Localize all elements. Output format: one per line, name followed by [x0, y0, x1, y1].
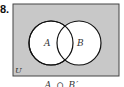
universe-label: U	[15, 66, 22, 75]
set-b-label: B	[76, 38, 84, 48]
caption: A ∩ B′	[0, 80, 124, 87]
venn-diagram: A B U	[0, 0, 124, 87]
set-a-label: A	[43, 38, 51, 48]
